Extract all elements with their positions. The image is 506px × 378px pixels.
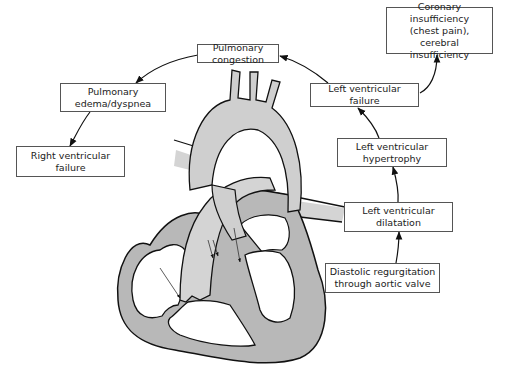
arrow-hypertrophy-to-lvfailure xyxy=(358,108,379,138)
node-line: dilatation xyxy=(362,217,434,229)
arrow-regurg-to-dilatation xyxy=(396,232,399,263)
arrow-lvfailure-to-coronary xyxy=(420,55,437,93)
node-line: failure xyxy=(31,162,110,174)
heart-illustration xyxy=(118,70,345,363)
node-left-ventricular-hypertrophy: Left ventricular hypertrophy xyxy=(337,138,447,167)
node-line: Left ventricular xyxy=(356,141,428,153)
node-pulmonary-edema: Pulmonary edema/dyspnea xyxy=(60,83,166,112)
node-left-ventricular-failure: Left ventricular failure xyxy=(310,83,419,107)
arrow-congestion-to-edema xyxy=(136,55,198,83)
node-right-ventricular-failure: Right ventricular failure xyxy=(16,146,125,177)
node-diastolic-regurgitation: Diastolic regurgitation through aortic v… xyxy=(325,263,440,293)
node-line: Left ventricular failure xyxy=(314,83,415,107)
node-line: insufficiency xyxy=(390,49,489,61)
node-line: edema/dyspnea xyxy=(75,98,151,110)
node-left-ventricular-dilatation: Left ventricular dilatation xyxy=(344,202,453,232)
arrow-edema-to-rvfailure xyxy=(70,112,90,146)
arrow-lvfailure-to-congestion xyxy=(280,56,328,83)
node-coronary-insufficiency: Coronary insufficiency (chest pain), cer… xyxy=(386,7,493,54)
node-line: (chest pain), cerebral xyxy=(390,25,489,49)
node-line: Pulmonary xyxy=(75,86,151,98)
node-line: Right ventricular xyxy=(31,150,110,162)
node-line: Diastolic regurgitation xyxy=(330,266,436,278)
arrow-dilatation-to-hypertrophy xyxy=(393,167,398,202)
node-line: hypertrophy xyxy=(356,153,428,165)
node-line: Left ventricular xyxy=(362,205,434,217)
node-line: Coronary insufficiency xyxy=(390,1,489,25)
node-pulmonary-congestion: Pulmonary congestion xyxy=(197,44,279,63)
node-line: Pulmonary congestion xyxy=(201,42,275,66)
node-line: through aortic valve xyxy=(330,278,436,290)
